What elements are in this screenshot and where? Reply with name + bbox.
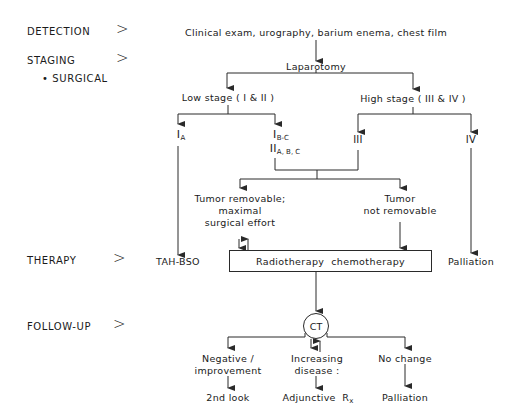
row-sublabel-surgical: • SURGICAL: [42, 73, 108, 85]
adjunctive-rx-sub: x: [349, 397, 353, 405]
increasing-line1: Increasing: [291, 353, 343, 365]
second-look-node: 2nd look: [206, 392, 249, 404]
detection-methods: Clinical exam, urography, barium enema, …: [185, 27, 447, 39]
row-separator-staging: >: [116, 52, 129, 64]
increasing-line2: disease :: [291, 365, 343, 377]
tumor-removable-line3: surgical effort: [195, 217, 286, 229]
stage-iv-node: IV: [466, 134, 476, 146]
row-label-detection: DETECTION: [27, 26, 90, 38]
adjunctive-rx-node: Adjunctive Rx: [283, 392, 354, 407]
stage-ib-c-sub: B-C: [277, 134, 289, 142]
row-label-therapy: THERAPY: [27, 255, 76, 267]
negative-improvement-node: Negative / improvement: [194, 353, 261, 377]
row-label-follow-up: FOLLOW-UP: [27, 321, 91, 333]
tumor-removable-line2: maximal: [195, 205, 286, 217]
high-stage-node: High stage ( III & IV ): [360, 93, 466, 105]
tumor-not-removable-line2: not removable: [363, 205, 436, 217]
negative-line2: improvement: [194, 365, 261, 377]
ct-scan-circle: CT: [303, 313, 329, 339]
row-separator-therapy: >: [113, 252, 126, 264]
stage-iia-c-sub: A, B, C: [277, 148, 300, 156]
radiotherapy-chemotherapy-label: Radiotherapy chemotherapy: [256, 256, 405, 267]
row-label-staging: STAGING: [27, 55, 75, 67]
laparotomy-node: Laparotomy: [286, 61, 346, 73]
tumor-removable-line1: Tumor removable;: [195, 193, 286, 205]
tumor-not-removable-line1: Tumor: [363, 193, 436, 205]
stage-ia-sub: A: [180, 134, 185, 142]
stage-iia-c-node: IIA, B, C: [270, 143, 300, 158]
low-stage-node: Low stage ( I & II ): [182, 92, 274, 104]
stage-ia-node: IA: [177, 129, 185, 144]
stage-iii-node: III: [353, 134, 363, 146]
increasing-disease-node: Increasing disease :: [291, 353, 343, 377]
tumor-not-removable-node: Tumor not removable: [363, 193, 436, 217]
palliation-therapy-node: Palliation: [448, 256, 494, 268]
tumor-removable-node: Tumor removable; maximal surgical effort: [195, 193, 286, 229]
row-separator-detection: >: [116, 23, 129, 35]
radiotherapy-chemotherapy-box: Radiotherapy chemotherapy: [229, 250, 432, 272]
ct-label: CT: [310, 321, 322, 332]
palliation-followup-node: Palliation: [382, 392, 428, 404]
adjunctive-rx-main: Adjunctive R: [283, 392, 350, 403]
row-separator-follow-up: >: [113, 318, 126, 330]
tah-bso-node: TAH-BSO: [156, 256, 200, 268]
no-change-node: No change: [378, 353, 432, 365]
negative-line1: Negative /: [194, 353, 261, 365]
